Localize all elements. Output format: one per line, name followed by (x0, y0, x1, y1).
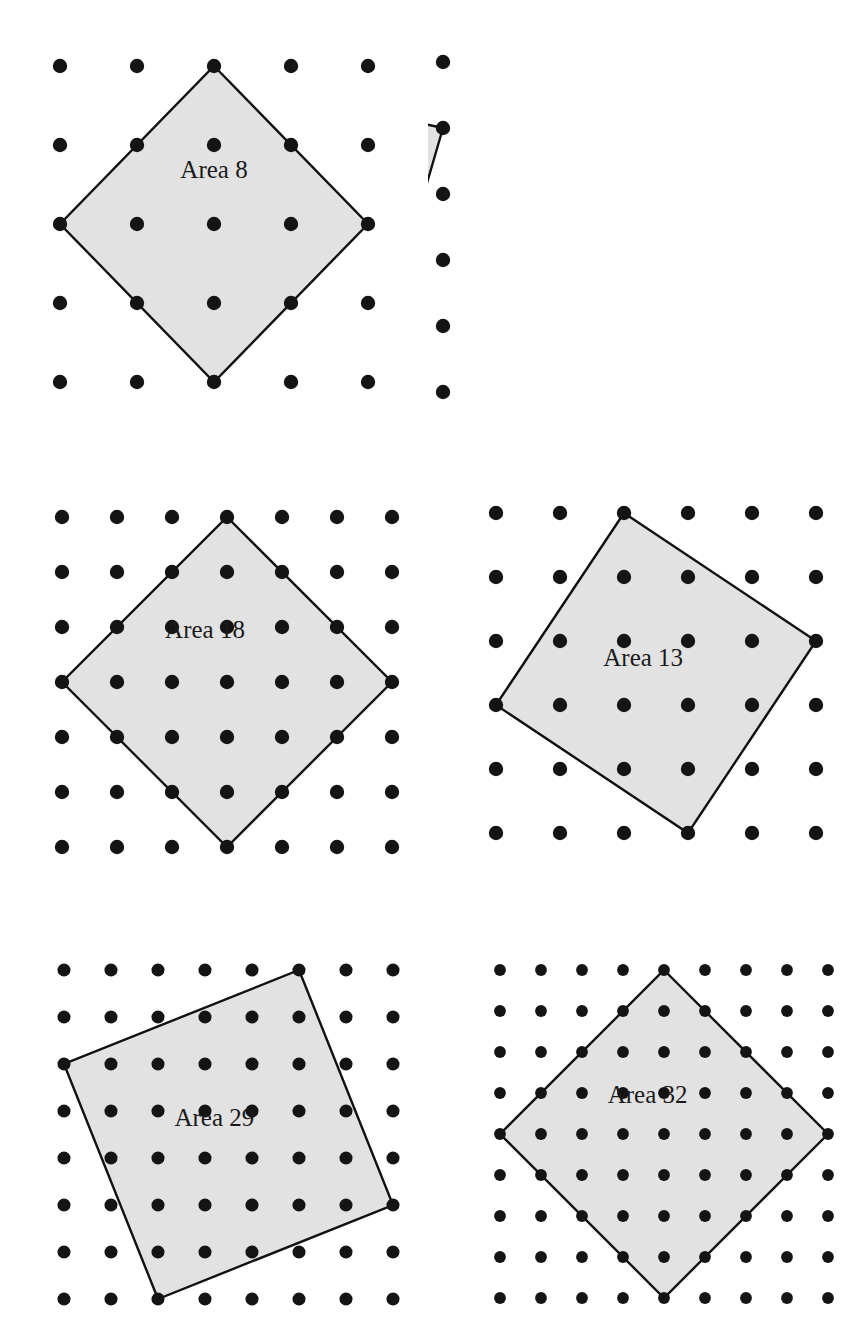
lattice-dot (681, 570, 695, 584)
lattice-dot (489, 506, 503, 520)
lattice-dot (535, 1005, 547, 1017)
lattice-dot (809, 698, 823, 712)
lattice-dot (57, 1292, 70, 1305)
lattice-dot (809, 762, 823, 776)
lattice-dot (535, 1087, 547, 1099)
lattice-dot (386, 1151, 399, 1164)
lattice-dot (436, 187, 450, 201)
lattice-dot (809, 826, 823, 840)
lattice-dot (104, 1010, 117, 1023)
lattice-dot (386, 1245, 399, 1258)
lattice-dot (494, 1087, 506, 1099)
lattice-dot (284, 138, 298, 152)
lattice-dot (57, 1151, 70, 1164)
lattice-dot (822, 1128, 834, 1140)
lattice-dot (339, 1198, 352, 1211)
lattice-dot (494, 1210, 506, 1222)
area-label: Area 18 (165, 616, 245, 643)
area-label: Area 32 (608, 1081, 688, 1108)
lattice-dot (681, 762, 695, 776)
lattice-dot (681, 698, 695, 712)
lattice-dot (617, 1210, 629, 1222)
lattice-dot (809, 506, 823, 520)
lattice-dot (130, 59, 144, 73)
lattice-dot (53, 296, 67, 310)
lattice-dot (275, 840, 289, 854)
lattice-dot (165, 785, 179, 799)
lattice-dot (57, 1010, 70, 1023)
lattice-dot (494, 1169, 506, 1181)
lattice-dot (386, 1057, 399, 1070)
lattice-dot (151, 1292, 164, 1305)
lattice-dot (330, 675, 344, 689)
lattice-dot (822, 1046, 834, 1058)
lattice-dot (617, 826, 631, 840)
lattice-dot (745, 698, 759, 712)
lattice-dot (658, 1046, 670, 1058)
lattice-dot (489, 570, 503, 584)
lattice-dot (576, 1292, 588, 1304)
lattice-dot (339, 1245, 352, 1258)
lattice-dot (53, 138, 67, 152)
lattice-dot (535, 1251, 547, 1263)
area-label: Area 29 (174, 1104, 254, 1131)
lattice-dot (576, 1210, 588, 1222)
lattice-dot (658, 1292, 670, 1304)
lattice-dot (385, 565, 399, 579)
lattice-dot (198, 1010, 211, 1023)
lattice-dot (55, 675, 69, 689)
lattice-dot (198, 1151, 211, 1164)
lattice-dot (220, 675, 234, 689)
lattice-dot (165, 840, 179, 854)
lattice-dot (781, 964, 793, 976)
lattice-dot (292, 1245, 305, 1258)
lattice-dot (130, 375, 144, 389)
lattice-dot (104, 1292, 117, 1305)
lattice-dot (617, 964, 629, 976)
lattice-dot (151, 1198, 164, 1211)
lattice-dot (494, 1251, 506, 1263)
lattice-dot (110, 730, 124, 744)
lattice-dot (386, 1104, 399, 1117)
lattice-dot (617, 762, 631, 776)
lattice-dot (110, 785, 124, 799)
lattice-dot (130, 296, 144, 310)
lattice-dot (361, 59, 375, 73)
lattice-dot (57, 1198, 70, 1211)
lattice-dot (220, 510, 234, 524)
lattice-dot (361, 217, 375, 231)
lattice-canvas: Area 17 (428, 0, 855, 441)
lattice-dot (330, 840, 344, 854)
lattice-dot (110, 675, 124, 689)
lattice-dot (617, 698, 631, 712)
lattice-dot (55, 785, 69, 799)
lattice-dot (658, 964, 670, 976)
lattice-dot (55, 510, 69, 524)
lattice-dot (339, 1104, 352, 1117)
lattice-dot (386, 963, 399, 976)
lattice-dot (436, 55, 450, 69)
lattice-dot (361, 138, 375, 152)
lattice-dot (151, 1151, 164, 1164)
lattice-dot (386, 1198, 399, 1211)
lattice-dot (740, 964, 752, 976)
lattice-dot (284, 217, 298, 231)
lattice-dot (553, 762, 567, 776)
lattice-dot (681, 506, 695, 520)
lattice-dot (57, 963, 70, 976)
lattice-panel-4: Area 13 (428, 441, 855, 882)
lattice-dot (740, 1128, 752, 1140)
lattice-dot (745, 506, 759, 520)
lattice-dot (576, 1251, 588, 1263)
lattice-dot (292, 1151, 305, 1164)
lattice-dot (220, 565, 234, 579)
lattice-dot (339, 1057, 352, 1070)
lattice-dot (385, 730, 399, 744)
lattice-dot (576, 1005, 588, 1017)
lattice-dot (57, 1104, 70, 1117)
lattice-dot (339, 963, 352, 976)
lattice-dot (535, 1046, 547, 1058)
lattice-dot (809, 570, 823, 584)
lattice-dot (361, 375, 375, 389)
lattice-dot (809, 634, 823, 648)
